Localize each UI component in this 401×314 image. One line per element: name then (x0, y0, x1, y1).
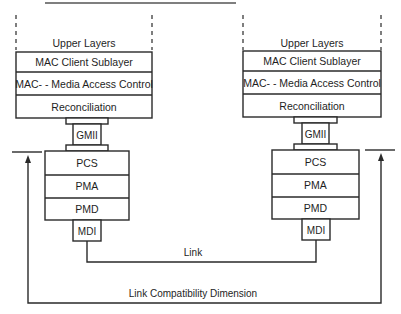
mac-layer: MAC- - Media Access Control (243, 77, 381, 89)
gmii-upper-flange (294, 117, 337, 123)
compatibility-label: Link Compatibility Dimension (129, 288, 257, 299)
pmd-layer: PMD (75, 203, 99, 215)
gmii-lower-flange (294, 144, 337, 150)
pma-layer: PMA (304, 179, 327, 191)
upper-layers-label: Upper Layers (280, 37, 343, 49)
mac-layer: MAC- - Media Access Control (15, 78, 153, 90)
mac-client-sublayer: MAC Client Sublayer (263, 55, 361, 67)
mdi-label: MDI (78, 226, 96, 237)
pcs-layer: PCS (305, 156, 327, 168)
gmii-upper-flange (66, 118, 108, 124)
arrow-up-icon (378, 153, 384, 161)
gmii-lower-flange (66, 145, 108, 151)
mac-client-sublayer: MAC Client Sublayer (35, 56, 133, 68)
left-stack: Upper Layers MAC Client Sublayer MAC- - … (12, 15, 153, 241)
gmii-label: GMII (305, 129, 327, 140)
pcs-layer: PCS (76, 157, 98, 169)
right-stack: Upper Layers MAC Client Sublayer MAC- - … (243, 15, 395, 240)
pma-layer: PMA (76, 180, 99, 192)
link-label: Link (184, 247, 203, 258)
reconciliation-layer: Reconciliation (51, 101, 117, 113)
mdi-label: MDI (307, 225, 325, 236)
arrow-up-icon (25, 155, 31, 163)
ethernet-layer-diagram: Upper Layers MAC Client Sublayer MAC- - … (0, 0, 401, 314)
upper-layers-label: Upper Layers (52, 37, 115, 49)
pmd-layer: PMD (304, 202, 328, 214)
gmii-label: GMII (76, 130, 98, 141)
reconciliation-layer: Reconciliation (279, 100, 345, 112)
